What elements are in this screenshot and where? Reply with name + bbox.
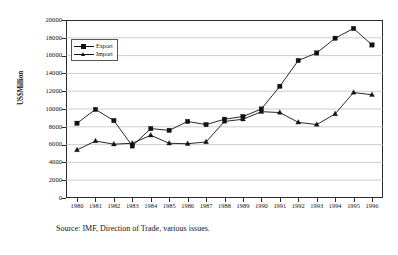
data-point-triangle bbox=[277, 110, 282, 115]
y-tick-label: 14000 bbox=[32, 70, 62, 77]
y-tick-label: 18000 bbox=[32, 35, 62, 42]
y-tick-label: 20000 bbox=[32, 17, 62, 24]
x-tick-mark bbox=[206, 198, 207, 202]
legend-swatch-triangle-icon bbox=[74, 50, 94, 58]
y-tick-mark bbox=[62, 162, 66, 163]
x-tick-mark bbox=[261, 198, 262, 202]
x-tick-mark bbox=[114, 198, 115, 202]
data-point-square bbox=[278, 84, 282, 88]
x-tick-mark bbox=[188, 198, 189, 202]
data-point-square bbox=[185, 119, 189, 123]
legend-label-export: Export bbox=[96, 42, 113, 50]
x-tick-mark bbox=[335, 198, 336, 202]
y-tick-mark bbox=[62, 38, 66, 39]
data-point-triangle bbox=[351, 90, 356, 95]
chart-area: US$Million 02000400060008000100001200014… bbox=[8, 6, 390, 211]
series-export bbox=[75, 26, 374, 148]
data-point-square bbox=[333, 36, 337, 40]
series-line bbox=[77, 28, 372, 145]
x-tick-mark bbox=[280, 198, 281, 202]
y-tick-label: 2000 bbox=[32, 177, 62, 184]
x-axis-tick-labels: 1980198119821983198419851986198719881989… bbox=[66, 202, 383, 218]
y-tick-label: 6000 bbox=[32, 141, 62, 148]
legend-item-import: Import bbox=[74, 50, 113, 58]
y-tick-mark bbox=[62, 91, 66, 92]
y-tick-label: 4000 bbox=[32, 159, 62, 166]
y-tick-label: 10000 bbox=[32, 106, 62, 113]
data-point-square bbox=[93, 107, 97, 111]
y-tick-mark bbox=[62, 20, 66, 21]
y-tick-label: 16000 bbox=[32, 52, 62, 59]
x-tick-mark bbox=[77, 198, 78, 202]
y-tick-mark bbox=[62, 127, 66, 128]
x-tick-mark bbox=[95, 198, 96, 202]
x-tick-mark bbox=[243, 198, 244, 202]
y-tick-mark bbox=[62, 109, 66, 110]
data-point-square bbox=[204, 122, 208, 126]
x-tick-label: 1996 bbox=[360, 202, 384, 210]
y-tick-label: 8000 bbox=[32, 124, 62, 131]
y-axis-title: US$Million bbox=[17, 57, 25, 119]
source-caption: Source: IMF, Direction of Trade, various… bbox=[56, 224, 210, 234]
data-point-square bbox=[351, 26, 355, 30]
data-point-square bbox=[296, 58, 300, 62]
legend-swatch-square-icon bbox=[74, 42, 94, 50]
series-import bbox=[75, 90, 375, 152]
x-tick-mark bbox=[151, 198, 152, 202]
x-tick-mark bbox=[132, 198, 133, 202]
data-point-square bbox=[314, 51, 318, 55]
x-tick-mark bbox=[298, 198, 299, 202]
trade-chart-figure: US$Million 02000400060008000100001200014… bbox=[0, 0, 398, 255]
y-tick-label: 12000 bbox=[32, 88, 62, 95]
legend-label-import: Import bbox=[96, 50, 113, 58]
x-tick-mark bbox=[317, 198, 318, 202]
data-point-square bbox=[167, 128, 171, 132]
data-point-square bbox=[149, 126, 153, 130]
x-tick-mark bbox=[225, 198, 226, 202]
data-point-square bbox=[370, 43, 374, 47]
legend-item-export: Export bbox=[74, 42, 113, 50]
series-layer bbox=[75, 26, 375, 151]
x-tick-mark bbox=[354, 198, 355, 202]
y-tick-mark bbox=[62, 198, 66, 199]
y-tick-mark bbox=[62, 56, 66, 57]
data-point-square bbox=[75, 121, 79, 125]
x-tick-mark bbox=[372, 198, 373, 202]
y-tick-mark bbox=[62, 73, 66, 74]
y-tick-mark bbox=[62, 180, 66, 181]
data-point-triangle bbox=[148, 132, 153, 137]
x-tick-mark bbox=[169, 198, 170, 202]
y-axis-tick-labels: 0200040006000800010000120001400016000180… bbox=[26, 6, 62, 212]
data-point-square bbox=[112, 118, 116, 122]
y-tick-mark bbox=[62, 145, 66, 146]
y-tick-label: 0 bbox=[32, 195, 62, 202]
chart-legend: Export Import bbox=[71, 39, 118, 61]
data-point-triangle bbox=[93, 138, 98, 143]
